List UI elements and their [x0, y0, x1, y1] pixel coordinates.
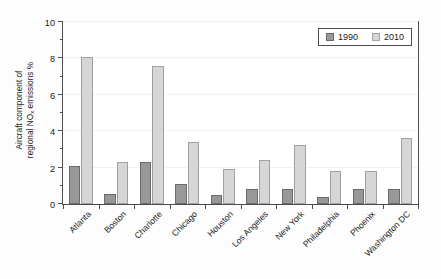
y-axis-tick-label: 0 [31, 200, 55, 210]
y-axis-tick-label: 6 [31, 91, 55, 101]
bar-washington-dc-1990 [388, 189, 400, 204]
legend-swatch-1990 [326, 33, 334, 41]
y-axis-title-line2-post: emissions % [25, 62, 35, 111]
bar-new-york-1990 [282, 189, 294, 204]
y-axis-tick-label: 2 [31, 164, 55, 174]
bar-philadelphia-2010 [330, 171, 342, 204]
y-axis-tick [58, 130, 63, 131]
bar-philadelphia-1990 [317, 197, 329, 204]
y-axis-minor-tick [60, 76, 63, 77]
bar-new-york-2010 [294, 145, 306, 204]
legend-swatch-2010 [372, 33, 380, 41]
x-axis-label-atlanta: Atlanta [1, 209, 93, 279]
y-axis-title-line1: Aircraft component of [14, 71, 24, 150]
y-axis-minor-tick [60, 185, 63, 186]
bar-los-angeles-1990 [246, 189, 258, 204]
legend-item-2010: 2010 [372, 32, 404, 42]
bar-atlanta-2010 [81, 57, 93, 204]
gridline [63, 94, 418, 95]
bar-charlotte-2010 [152, 66, 164, 204]
legend-label-2010: 2010 [384, 32, 404, 42]
bar-chicago-2010 [188, 142, 200, 204]
bar-boston-1990 [104, 194, 116, 204]
legend-item-1990: 1990 [326, 32, 358, 42]
y-axis-title-subscript: x [28, 111, 35, 114]
chart-legend: 19902010 [318, 28, 412, 46]
y-axis-tick-label: 10 [31, 18, 55, 28]
bar-los-angeles-2010 [259, 160, 271, 204]
y-axis-minor-tick [60, 148, 63, 149]
bar-charlotte-1990 [140, 162, 152, 204]
y-axis-tick [58, 57, 63, 58]
bar-atlanta-1990 [69, 166, 81, 204]
bar-houston-2010 [223, 169, 235, 204]
legend-label-1990: 1990 [338, 32, 358, 42]
y-axis-tick [58, 167, 63, 168]
y-axis-title-line2: regional NOx emissions % [25, 15, 38, 205]
y-axis-tick-label: 8 [31, 54, 55, 64]
bar-phoenix-1990 [353, 189, 365, 204]
gridline [63, 21, 418, 22]
bar-washington-dc-2010 [401, 138, 413, 204]
bar-boston-2010 [117, 162, 129, 204]
x-axis-labels: AtlantaBostonCharlotteChicagoHoustonLos … [62, 209, 419, 279]
y-axis-tick [58, 94, 63, 95]
bar-chicago-1990 [175, 184, 187, 204]
gridline [63, 57, 418, 58]
gridline [63, 130, 418, 131]
plot-inner: 0246810 [63, 22, 418, 204]
bar-houston-1990 [211, 195, 223, 204]
bar-phoenix-2010 [365, 171, 377, 204]
y-axis-tick-label: 4 [31, 127, 55, 137]
y-axis-tick [58, 21, 63, 22]
y-axis-title: Aircraft component of regional NOx emiss… [14, 15, 37, 205]
y-axis-minor-tick [60, 39, 63, 40]
plot-area: 0246810 19902010 [62, 21, 419, 205]
y-axis-minor-tick [60, 112, 63, 113]
y-axis-title-container: Aircraft component of regional NOx emiss… [0, 0, 46, 210]
chart-figure: Aircraft component of regional NOx emiss… [0, 0, 441, 279]
